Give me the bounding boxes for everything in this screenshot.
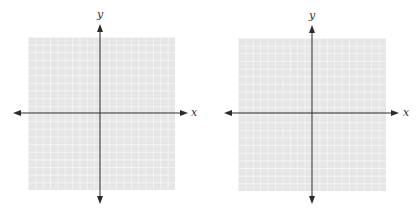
- y-axis-down-arrow-icon: [309, 196, 315, 204]
- x-axis-right-arrow-icon: [391, 110, 399, 116]
- x-axis-left-arrow-icon: [13, 110, 21, 116]
- x-axis-label: x: [403, 107, 409, 118]
- y-axis-down-arrow-icon: [97, 196, 103, 204]
- x-axis-left-arrow-icon: [224, 110, 232, 116]
- y-axis-up-arrow-icon: [97, 24, 103, 32]
- x-axis-right-arrow-icon: [180, 110, 188, 116]
- x-axis-label: x: [191, 107, 197, 118]
- coordinate-plane-right: y x: [209, 0, 418, 209]
- y-axis-label: y: [309, 10, 315, 21]
- y-axis-label: y: [97, 9, 103, 20]
- y-axis-up-arrow-icon: [309, 25, 315, 33]
- coordinate-plane-left: y x: [0, 0, 209, 209]
- grid-right: [209, 0, 418, 209]
- grid-left: [0, 0, 209, 209]
